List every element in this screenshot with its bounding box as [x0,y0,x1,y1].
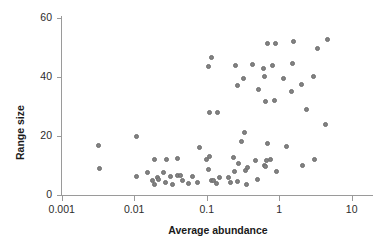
scatter-point [206,167,211,172]
scatter-point [217,175,222,180]
scatter-point [180,178,185,183]
scatter-point [161,170,166,175]
scatter-point [281,76,286,81]
x-tick-mark [134,196,135,201]
x-tick-mark [279,196,280,201]
x-tick-mark [352,196,353,201]
x-tick-mark [62,196,63,201]
x-tick-label: 0.01 [104,203,164,215]
y-tick-label: 40 [18,70,52,82]
x-tick-mark [207,196,208,201]
scatter-point [244,182,249,187]
scatter-point [242,130,247,135]
scatter-point [284,144,289,149]
scatter-point [268,157,273,162]
scatter-point [253,158,258,163]
scatter-point [233,63,238,68]
x-tick-label: 10 [322,203,382,215]
y-tick-label: 60 [18,11,52,23]
x-axis-title: Average abundance [62,224,374,236]
scatter-point [214,181,219,186]
x-axis-line [61,195,373,196]
scatter-point [241,76,246,81]
y-axis-title: Range size [14,105,26,160]
x-tick-label: 1 [249,203,309,215]
scatter-point [96,143,101,148]
x-tick-label: 0.001 [32,203,92,215]
scatter-point [263,164,268,169]
scatter-point [163,180,168,185]
scatter-point [152,157,157,162]
scatter-point [262,74,267,79]
scatter-point [312,157,317,162]
scatter-point [235,83,240,88]
scatter-point [190,174,195,179]
plot-area [62,17,362,195]
scatter-point [255,177,260,182]
scatter-point [245,165,250,170]
scatter-point [226,175,231,180]
x-tick-label: 0.1 [177,203,237,215]
scatter-point [197,145,202,150]
scatter-point [228,180,233,185]
y-tick-label: 0 [18,188,52,200]
scatter-point [170,182,175,187]
scatter-plot-figure: 0204060 0.0010.010.1110 Range size Avera… [0,0,384,245]
scatter-point [204,157,209,162]
scatter-point [263,99,268,104]
scatter-point [261,66,266,71]
scatter-point [207,110,212,115]
scatter-point [209,55,214,60]
scatter-point [97,166,102,171]
